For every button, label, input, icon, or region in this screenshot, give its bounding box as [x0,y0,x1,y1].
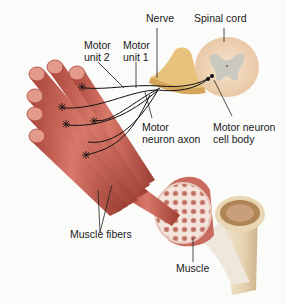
label-spinal-cord: Spinal cord [194,12,247,24]
label-muscle-fibers: Muscle fibers [70,228,132,240]
label-nerve: Nerve [146,12,174,24]
motor-unit-diagram: Nerve Spinal cord Motor unit 2 Motor uni… [0,0,286,304]
spinal-cord [195,37,259,97]
label-muscle: Muscle [176,262,209,274]
label-motor-unit-1: Motor unit 1 [123,39,150,63]
label-motor-unit-2: Motor unit 2 [84,39,111,63]
label-motor-neuron-cell-body: Motor neuron cell body [213,121,275,145]
label-motor-neuron-axon: Motor neuron axon [142,121,200,145]
